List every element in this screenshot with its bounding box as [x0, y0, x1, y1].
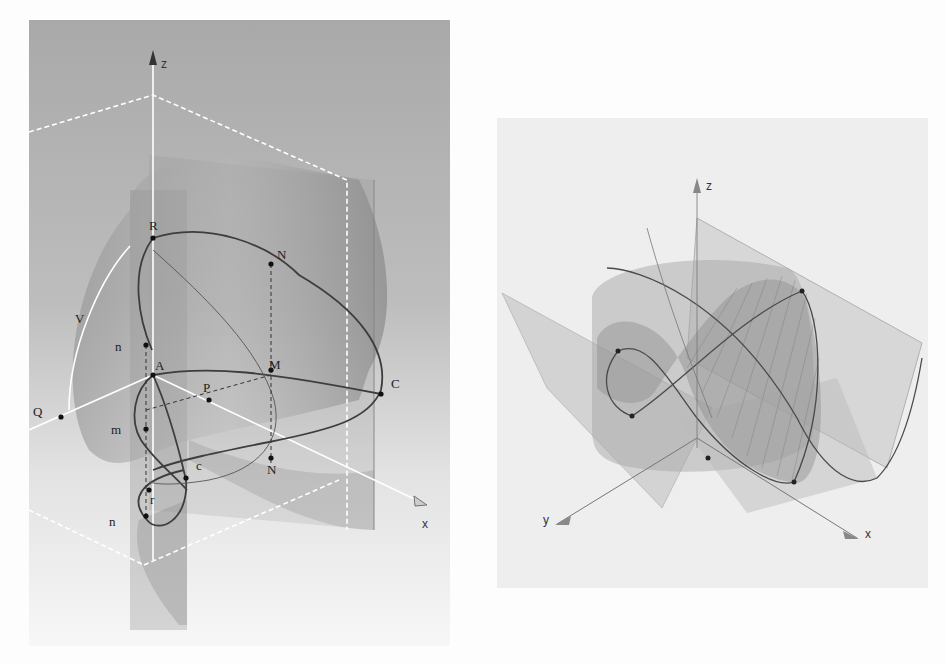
- label-A: A: [155, 358, 165, 373]
- z-axis-label: z: [706, 179, 712, 193]
- right-diagram-svg: z y x: [497, 118, 928, 588]
- label-V: V: [75, 311, 85, 326]
- point-N-top: [268, 261, 273, 266]
- point-P: [206, 397, 211, 402]
- label-N-top: N: [277, 247, 287, 262]
- y-axis-label: y: [543, 513, 549, 527]
- label-M: M: [269, 357, 281, 372]
- point-c: [183, 475, 188, 480]
- right-figure: z y x: [497, 118, 928, 588]
- label-m: m: [111, 422, 121, 437]
- label-r: r: [150, 492, 155, 507]
- point-m: [143, 426, 148, 431]
- z-axis-label: z: [161, 57, 167, 71]
- label-N-bottom: N: [267, 462, 277, 477]
- label-c: c: [196, 458, 202, 473]
- point-bottom: [792, 480, 797, 485]
- point-n-lower: [143, 513, 148, 518]
- left-diagram-svg: z x: [29, 20, 450, 646]
- label-Q: Q: [33, 404, 43, 419]
- point-top-right: [800, 289, 805, 294]
- point-R: [150, 235, 155, 240]
- label-P: P: [203, 380, 210, 395]
- point-N-bottom: [268, 455, 273, 460]
- x-axis-label: x: [865, 527, 871, 541]
- point-center: [706, 456, 711, 461]
- label-n-upper: n: [115, 339, 122, 354]
- left-figure: z x: [29, 20, 450, 646]
- point-Q: [58, 414, 63, 419]
- label-n-lower: n: [109, 514, 116, 529]
- point-n-upper: [143, 342, 148, 347]
- point-A: [150, 372, 155, 377]
- point-upper-left: [616, 349, 621, 354]
- point-left: [630, 414, 635, 419]
- label-R: R: [149, 218, 158, 233]
- label-C: C: [391, 376, 400, 391]
- x-axis-label: x: [422, 517, 428, 531]
- point-C: [378, 391, 383, 396]
